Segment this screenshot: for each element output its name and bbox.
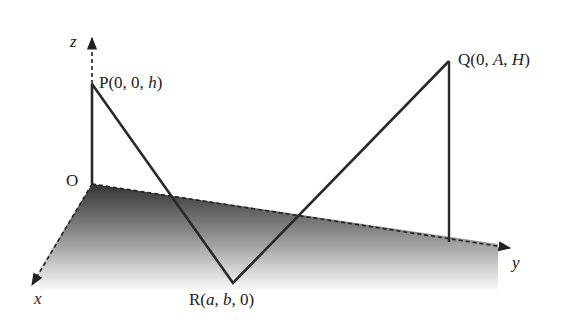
point-p-var-h: h [148,73,157,92]
origin-label: O [66,172,78,189]
point-p-suffix: ) [157,73,163,92]
x-axis-label: x [34,290,42,307]
point-q-var-a: A [493,50,503,69]
point-r-prefix: R( [189,290,206,309]
point-q-var-h: H [512,50,524,69]
point-q-suffix: ) [524,50,530,69]
point-r-sep2: , 0) [232,290,255,309]
point-p-label: P(0, 0, h) [99,74,162,91]
xy-plane [38,184,498,292]
point-r-sep1: , [215,290,224,309]
z-axis-label: z [70,33,77,50]
point-q-sep: , [503,50,512,69]
diagram-canvas: z P(0, 0, h) Q(0, A, H) O R(a, b, 0) x y [0,0,587,329]
y-axis-label: y [512,254,520,271]
point-q-label: Q(0, A, H) [458,51,530,68]
point-q-prefix: Q(0, [458,50,493,69]
point-r-var-b: b [223,290,232,309]
point-r-label: R(a, b, 0) [189,291,254,308]
point-r-var-a: a [206,290,215,309]
point-p-prefix: P(0, 0, [99,73,148,92]
